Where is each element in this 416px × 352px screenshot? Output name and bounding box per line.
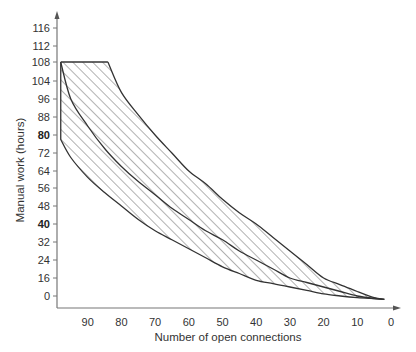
y-tick-label: 64 bbox=[38, 165, 50, 177]
x-tick-label: 60 bbox=[183, 316, 195, 328]
y-tick-label: 112 bbox=[32, 40, 50, 52]
x-tick-label: 40 bbox=[250, 316, 262, 328]
x-tick-label: 70 bbox=[149, 316, 161, 328]
y-tick-label: 116 bbox=[32, 22, 50, 34]
y-tick-label: 72 bbox=[38, 147, 50, 159]
x-tick-label: 50 bbox=[216, 316, 228, 328]
y-tick-label: 32 bbox=[38, 236, 50, 248]
x-axis: 9080706050403020100 Number of open conne… bbox=[57, 306, 401, 344]
x-tick-label: 20 bbox=[317, 316, 329, 328]
x-ticks: 9080706050403020100 bbox=[82, 316, 394, 328]
y-tick-label: 16 bbox=[38, 272, 50, 284]
y-ticks: 01624324048566472808896104108112116 bbox=[32, 22, 57, 302]
y-axis-title: Manual work (hours) bbox=[14, 117, 26, 222]
y-tick-label: 88 bbox=[38, 111, 50, 123]
plot-area bbox=[61, 62, 385, 299]
x-axis-title: Number of open connections bbox=[154, 331, 301, 343]
y-tick-label: 0 bbox=[44, 290, 50, 302]
hatched-band bbox=[61, 62, 385, 299]
y-tick-label: 80 bbox=[38, 129, 50, 141]
x-tick-label: 90 bbox=[82, 316, 94, 328]
x-tick-label: 80 bbox=[115, 316, 127, 328]
x-axis-arrow-icon bbox=[393, 306, 401, 311]
y-axis: 01624324048566472808896104108112116 Manu… bbox=[14, 11, 60, 308]
y-tick-label: 56 bbox=[38, 182, 50, 194]
y-tick-label: 108 bbox=[32, 56, 50, 68]
y-axis-arrow-icon bbox=[55, 11, 60, 19]
y-tick-label: 48 bbox=[38, 200, 50, 212]
x-tick-label: 30 bbox=[284, 316, 296, 328]
x-tick-label: 10 bbox=[351, 316, 363, 328]
chart: 01624324048566472808896104108112116 Manu… bbox=[0, 0, 416, 352]
y-tick-label: 96 bbox=[38, 93, 50, 105]
y-tick-label: 24 bbox=[38, 254, 50, 266]
y-tick-label: 104 bbox=[32, 75, 50, 87]
y-tick-label: 40 bbox=[38, 218, 50, 230]
x-tick-label: 0 bbox=[388, 316, 394, 328]
